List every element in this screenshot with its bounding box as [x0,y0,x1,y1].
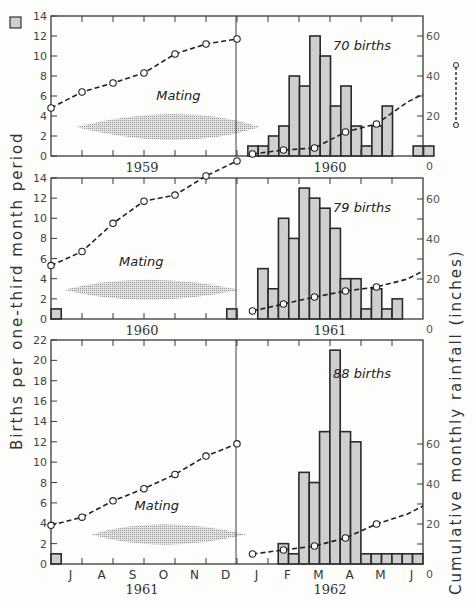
birth-bar [392,299,402,319]
mating-label: Mating [135,498,179,513]
mating-label: Mating [156,88,200,103]
rainfall-point [342,288,348,294]
month-label: M [313,568,323,582]
birth-bar [330,228,340,319]
month-label: F [284,568,291,582]
rainfall-point [110,80,116,86]
births-rainfall-chart: Mating02468101214020406070 births1959196… [0,0,474,607]
births-annotation: 88 births [333,366,391,381]
y-tick-label: 4 [40,110,47,123]
birth-bar [340,432,350,564]
y-tick-label: 6 [40,497,47,510]
y-tick-label: 0 [40,558,47,571]
y-tick-label: 18 [33,375,47,388]
year-label-right: 1961 [313,323,346,338]
birth-bar [351,279,361,319]
rainfall-point [141,70,147,76]
birth-bar [289,76,299,156]
rainfall-point [141,198,147,204]
y-tick-label: 2 [40,293,47,306]
rainfall-point [141,485,147,491]
y-tick-label: 14 [33,172,47,185]
rainfall-point [79,514,85,520]
y-tick-label: 4 [40,273,47,286]
birth-bar [372,126,382,156]
birth-bar [258,269,268,319]
rainfall-point [280,547,286,553]
y-tick-label: 10 [33,50,47,63]
birth-bar [361,554,371,564]
birth-bar [341,86,351,156]
y-tick-label: 8 [40,477,47,490]
rainfall-point [203,41,209,47]
y-tick-label: 12 [33,192,47,205]
rainfall-legend-line-icon [454,63,459,128]
month-label: N [190,568,199,582]
year-label-right: 1962 [313,582,346,597]
birth-bar [402,554,412,564]
birth-bar [362,146,372,156]
left-axis-title: Births per one-third month period [8,17,26,450]
birth-bar [382,554,392,564]
rainfall-point [280,301,286,307]
rainfall-point [373,121,379,127]
y-tick-label: 20 [33,354,47,367]
month-label: A [345,568,354,582]
y-tick-label: 6 [40,90,47,103]
y-tick-label: 2 [40,538,47,551]
right-y-tick-label: 60 [426,438,440,451]
birth-bar [309,198,319,319]
right-y-tick-label: 40 [426,70,440,83]
rainfall-point [203,453,209,459]
birth-bar [413,146,423,156]
rainfall-point [48,262,54,268]
rainfall-point [249,308,255,314]
y-tick-label: 6 [40,253,47,266]
birth-bar [320,56,330,156]
rainfall-point [311,145,317,151]
right-y-tick-label: 20 [426,273,440,286]
birth-bar [361,309,371,319]
y-tick-label: 2 [40,130,47,143]
y-tick-label: 14 [33,10,47,23]
birth-bar [258,146,268,156]
rainfall-point [311,543,317,549]
rainfall-point [234,36,240,42]
rainfall-point [172,471,178,477]
year-label-right: 1960 [313,160,346,175]
rainfall-point [342,129,348,135]
rainfall-point [373,284,379,290]
right-y-tick-label: 40 [426,233,440,246]
rainfall-point [172,51,178,57]
birth-bar [309,483,319,564]
y-tick-label: 10 [33,212,47,225]
birth-bar [392,554,402,564]
panel-1: Mating02468101214020406070 births1959196… [33,10,440,175]
y-tick-label: 4 [40,517,47,530]
birth-bar [382,309,392,319]
right-y-tick-label: 0 [426,568,433,581]
birth-bar [330,350,340,564]
birth-bar [227,309,237,319]
birth-bar [371,554,381,564]
y-tick-label: 8 [40,232,47,245]
rainfall-point [110,220,116,226]
right-y-tick-label: 60 [426,30,440,43]
right-y-tick-label: 0 [426,323,433,336]
rainfall-point [311,294,317,300]
right-y-tick-label: 20 [426,518,440,531]
right-y-tick-label: 0 [426,160,433,173]
month-label: J [409,568,414,582]
births-annotation: 79 births [333,200,391,215]
rainfall-point [110,498,116,504]
right-y-tick-label: 40 [426,478,440,491]
birth-bar [51,554,61,564]
birth-bar [413,554,423,564]
mating-period-shape [76,114,260,140]
left-axis-title-text: Births per one-third month period [8,131,26,450]
year-label-left: 1960 [125,323,158,338]
month-label: J [68,568,73,582]
panels: Mating02468101214020406070 births1959196… [33,10,440,597]
y-tick-label: 12 [33,30,47,43]
birth-bar [424,146,434,156]
